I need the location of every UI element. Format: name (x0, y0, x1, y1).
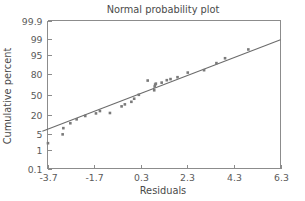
data-point (130, 101, 133, 104)
normal-reference-line (42, 40, 280, 132)
data-point (224, 57, 227, 60)
data-point (138, 94, 141, 97)
y-axis-title: Cumulative percent (2, 48, 13, 145)
plot-frame (48, 21, 281, 169)
data-point (69, 122, 72, 125)
reference-line-group (42, 40, 280, 132)
data-point (109, 112, 112, 115)
data-point (47, 142, 50, 145)
x-axis-title-group: Residuals (140, 185, 186, 196)
data-point (146, 79, 149, 82)
data-point-series (47, 48, 250, 144)
data-point (153, 89, 156, 92)
y-tick-label: 5 (37, 129, 43, 140)
y-tick-label: 80 (31, 69, 43, 80)
data-point (155, 82, 158, 85)
x-tick-label: 2.3 (180, 172, 195, 183)
y-tick-label: 95 (31, 50, 43, 61)
y-axis-tick-labels: 0.115205080959999.9 (22, 16, 43, 175)
data-point (84, 115, 87, 118)
y-axis-tick-marks (48, 22, 52, 170)
x-tick-label: 6.3 (274, 172, 289, 183)
x-tick-label: -3.7 (39, 172, 57, 183)
data-point (120, 105, 123, 108)
data-point (61, 133, 64, 136)
data-point (186, 71, 189, 74)
y-tick-label: 99.9 (22, 16, 43, 27)
y-tick-label: 99 (31, 34, 43, 45)
chart-canvas: Normal probability plot 0.11520508095999… (0, 0, 305, 201)
data-point (99, 110, 102, 113)
axes-frame-box (48, 21, 281, 169)
x-axis-tick-labels: -3.7-1.70.32.34.36.3 (39, 172, 289, 183)
y-tick-label: 50 (31, 90, 43, 101)
normal-probability-plot-figure: Normal probability plot 0.11520508095999… (0, 0, 305, 201)
data-point (62, 127, 65, 130)
data-point (215, 62, 218, 65)
x-axis-tick-marks (49, 165, 282, 169)
y-tick-label: 20 (31, 110, 43, 121)
data-point (124, 103, 127, 106)
data-point (160, 81, 163, 84)
data-point (133, 97, 136, 100)
x-axis-title: Residuals (140, 185, 186, 196)
data-point (95, 112, 98, 115)
x-tick-label: -1.7 (85, 172, 103, 183)
data-point (247, 48, 250, 51)
y-axis-title-group: Cumulative percent (2, 48, 13, 145)
chart-title: Normal probability plot (107, 4, 220, 15)
data-point (165, 79, 168, 82)
plot-title-group: Normal probability plot (107, 4, 220, 15)
x-tick-label: 0.3 (134, 172, 149, 183)
data-point (203, 69, 206, 72)
x-tick-label: 4.3 (227, 172, 242, 183)
data-point (169, 78, 172, 81)
y-tick-label: 1 (37, 145, 43, 156)
data-point (176, 76, 179, 79)
data-point (75, 118, 78, 121)
